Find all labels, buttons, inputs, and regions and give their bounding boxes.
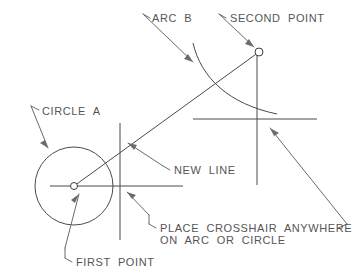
label-second-point: SECOND POINT [230,12,325,24]
label-new-line: NEW LINE [174,164,236,176]
second-point-marker[interactable] [255,48,263,56]
first-point-marker[interactable] [71,183,78,190]
place-crosshair-leader-right [270,128,347,228]
label-circle-a: CIRCLE A [42,105,101,117]
label-place-crosshair-line2: ON ARC OR CIRCLE [160,234,286,246]
diagram-vector-layer: ARC B SECOND POINT CIRCLE A NEW LINE PLA… [0,0,364,280]
new-line-leader [128,143,170,170]
label-place-crosshair-line1: PLACE CROSSHAIR ANYWHERE [160,222,352,234]
label-arc-b: ARC B [152,12,192,24]
cad-diagram-canvas: ARC B SECOND POINT CIRCLE A NEW LINE PLA… [0,0,364,280]
place-crosshair-leader-left [127,192,156,228]
label-first-point: FIRST POINT [76,256,155,268]
arc-b-shape[interactable] [193,43,277,114]
first-point-leader [65,194,79,262]
